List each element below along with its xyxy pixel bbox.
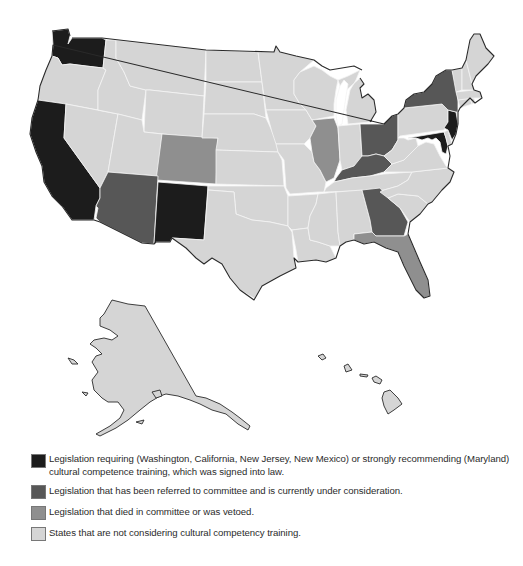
alaska-island — [136, 420, 144, 424]
state-wyoming[interactable] — [144, 90, 204, 138]
state-south-dakota[interactable] — [204, 82, 266, 118]
state-north-dakota[interactable] — [206, 50, 262, 82]
state-hawaii-molokai[interactable] — [360, 374, 368, 377]
legend-item-not-considering: States that are not considering cultural… — [31, 526, 511, 541]
legend-item-under-consideration: Legislation that has been referred to co… — [31, 484, 511, 499]
state-florida[interactable] — [354, 232, 430, 298]
legend-label: States that are not considering cultural… — [49, 526, 301, 539]
state-new-mexico[interactable] — [154, 182, 208, 244]
state-arizona[interactable] — [96, 172, 158, 244]
alaska-island — [82, 392, 88, 396]
map-legend: Legislation requiring (Washington, Calif… — [31, 453, 511, 547]
state-colorado[interactable] — [156, 134, 218, 184]
legend-item-died-or-vetoed: Legislation that died in committee or wa… — [31, 505, 511, 520]
state-kansas[interactable] — [216, 150, 284, 186]
state-hawaii-kauai[interactable] — [318, 354, 326, 360]
lake-michigan — [336, 80, 348, 126]
legend-swatch-black — [31, 454, 46, 468]
legend-swatch-light-gray — [31, 527, 46, 541]
state-hawaii-oahu[interactable] — [344, 364, 352, 372]
legend-label: Legislation that died in committee or wa… — [49, 505, 254, 518]
legend-label: Legislation that has been referred to co… — [49, 484, 403, 497]
legend-swatch-medium-gray — [31, 506, 46, 520]
legend-swatch-dark-gray — [31, 485, 46, 499]
alaska-island — [68, 358, 78, 364]
legend-label: Legislation requiring (Washington, Calif… — [49, 453, 511, 478]
state-hawaii-big-island[interactable] — [382, 390, 402, 414]
state-alaska[interactable] — [90, 300, 250, 436]
legend-item-signed-into-law: Legislation requiring (Washington, Calif… — [31, 453, 511, 478]
state-hawaii-maui[interactable] — [372, 376, 382, 384]
us-choropleth-map — [0, 0, 523, 440]
